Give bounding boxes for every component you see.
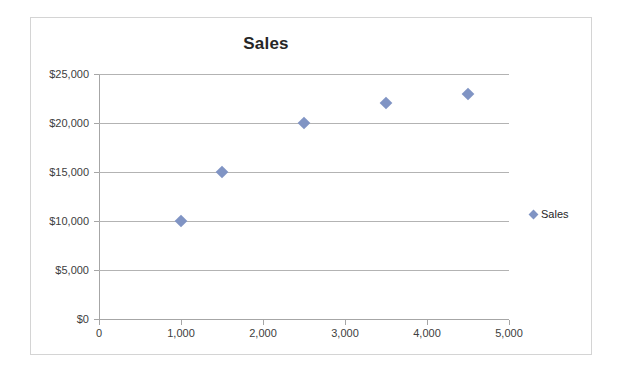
gridline-y xyxy=(99,270,509,271)
chart-legend: Sales xyxy=(530,208,569,220)
y-axis-tick-label: $25,000 xyxy=(29,68,89,80)
x-axis-tick-label: 2,000 xyxy=(233,327,293,339)
y-tick-mark xyxy=(94,74,99,75)
legend-label-sales: Sales xyxy=(541,208,569,220)
plot-area xyxy=(99,74,509,319)
y-tick-mark xyxy=(94,123,99,124)
gridline-y xyxy=(99,319,509,320)
x-axis-tick-label: 0 xyxy=(69,327,129,339)
y-axis-tick-label: $10,000 xyxy=(29,215,89,227)
y-axis-tick-label: $5,000 xyxy=(29,264,89,276)
x-tick-mark xyxy=(345,320,346,325)
x-tick-mark xyxy=(99,320,100,325)
x-tick-mark xyxy=(509,320,510,325)
chart-title: Sales xyxy=(31,34,501,54)
data-point-marker[interactable] xyxy=(380,97,393,110)
x-axis-tick-label: 5,000 xyxy=(479,327,539,339)
x-tick-mark xyxy=(427,320,428,325)
y-axis-tick-label: $15,000 xyxy=(29,166,89,178)
y-axis-tick-label: $20,000 xyxy=(29,117,89,129)
x-tick-mark xyxy=(263,320,264,325)
y-tick-mark xyxy=(94,172,99,173)
gridline-y xyxy=(99,74,509,75)
data-point-marker[interactable] xyxy=(175,215,188,228)
x-axis-tick-label: 3,000 xyxy=(315,327,375,339)
data-point-marker[interactable] xyxy=(298,117,311,130)
y-tick-mark xyxy=(94,221,99,222)
data-point-marker[interactable] xyxy=(216,166,229,179)
gridline-y xyxy=(99,221,509,222)
x-axis-tick-label: 1,000 xyxy=(151,327,211,339)
x-axis-tick-label: 4,000 xyxy=(397,327,457,339)
y-axis-tick-label: $0 xyxy=(29,313,89,325)
y-tick-mark xyxy=(94,270,99,271)
chart-container: Sales $0$5,000$10,000$15,000$20,000$25,0… xyxy=(30,17,592,355)
x-tick-mark xyxy=(181,320,182,325)
gridline-y xyxy=(99,172,509,173)
legend-diamond-icon xyxy=(529,209,539,219)
data-point-marker[interactable] xyxy=(462,87,475,100)
